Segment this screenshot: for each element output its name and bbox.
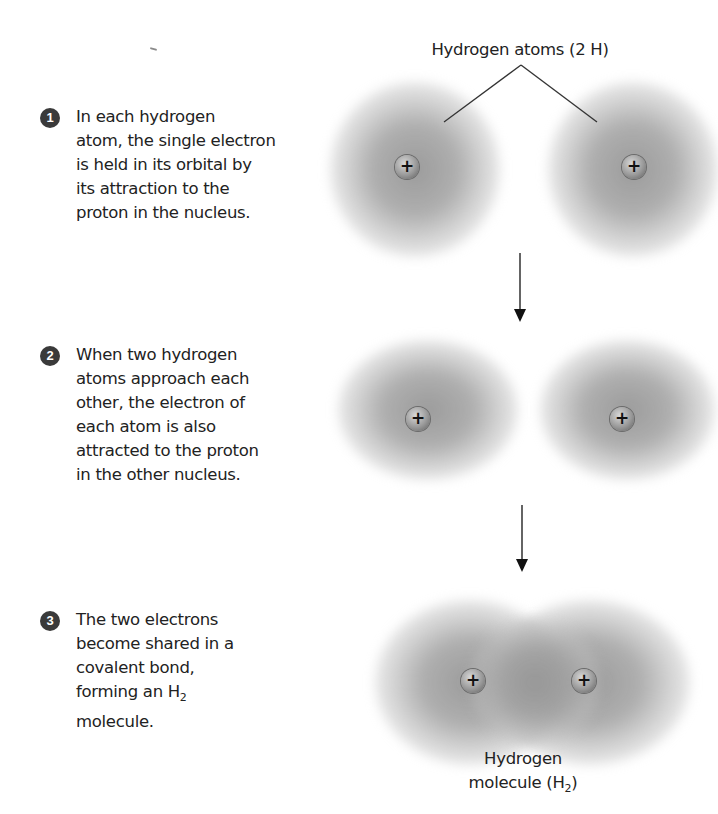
step-text-line: become shared in a	[76, 632, 310, 656]
step-text-line: atom, the single electron	[76, 129, 310, 153]
step-text-line: is held in its orbital by	[76, 153, 310, 177]
step-text-line: in the other nucleus.	[76, 463, 310, 487]
molecule-label-line1: Hydrogen	[438, 747, 608, 771]
step-text-subscript: 2	[180, 691, 187, 704]
arrow-down-icon	[514, 253, 526, 322]
step-1-caption: 1 In each hydrogen atom, the single elec…	[40, 105, 310, 225]
step-text-prefix: forming an H	[76, 682, 180, 701]
hydrogen-atoms-label: Hydrogen atoms (2 H)	[420, 38, 620, 62]
step-3-caption: 3 The two electrons become shared in a c…	[40, 608, 310, 734]
step-text-line: each atom is also	[76, 415, 310, 439]
step-text-line: molecule.	[76, 710, 310, 734]
step-text-line: its attraction to the	[76, 177, 310, 201]
hydrogen-atoms-label-text: Hydrogen atoms (2 H)	[431, 40, 608, 59]
molecule-label-line2: molecule (H2)	[438, 771, 608, 801]
step-number-badge: 2	[40, 346, 60, 366]
molecule-label-suffix: )	[571, 773, 577, 792]
step-text-line: covalent bond,	[76, 656, 310, 680]
step-number-badge: 1	[40, 108, 60, 128]
step-number-badge: 3	[40, 611, 60, 631]
step-text-line: atoms approach each	[76, 367, 310, 391]
step-1-text: In each hydrogen atom, the single electr…	[76, 105, 310, 225]
step-text-line: other, the electron of	[76, 391, 310, 415]
step-2-text: When two hydrogen atoms approach each ot…	[76, 343, 310, 487]
arrow-down-icon	[516, 505, 528, 572]
label-pointer-lines	[444, 65, 597, 122]
step-text-line: attracted to the proton	[76, 439, 310, 463]
step-3-text: The two electrons become shared in a cov…	[76, 608, 310, 734]
step-2-caption: 2 When two hydrogen atoms approach each …	[40, 343, 310, 487]
step-text-line: forming an H2	[76, 680, 310, 710]
step-text-line: In each hydrogen	[76, 105, 310, 129]
hydrogen-molecule-label: Hydrogen molecule (H2)	[438, 747, 608, 801]
step-text-line: proton in the nucleus.	[76, 201, 310, 225]
step-text-line: When two hydrogen	[76, 343, 310, 367]
molecule-label-prefix: molecule (H	[469, 773, 565, 792]
step-text-line: The two electrons	[76, 608, 310, 632]
